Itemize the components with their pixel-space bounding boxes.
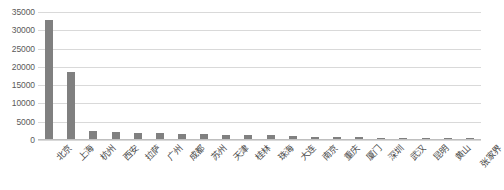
bar-slot	[215, 12, 237, 140]
y-axis-tick-label: 5000	[16, 117, 35, 126]
plot-area	[38, 12, 481, 140]
bar-slot	[149, 12, 171, 140]
y-axis: 35000300002500020000150001000050000	[0, 0, 38, 190]
bar[interactable]	[67, 72, 75, 140]
bar-slot	[193, 12, 215, 140]
x-axis-tick-label: 张家界	[478, 143, 504, 169]
x-axis-tick-label: 南京	[320, 143, 340, 163]
bar-slot	[237, 12, 259, 140]
y-axis-tick-label: 0	[30, 136, 35, 145]
axis-baseline	[38, 139, 481, 140]
y-axis-tick-label: 10000	[12, 99, 35, 108]
x-axis-tick-label: 深圳	[387, 143, 407, 163]
x-axis-tick-label: 北京	[54, 143, 74, 163]
x-axis-tick-label: 桂林	[254, 143, 274, 163]
bar-slot	[38, 12, 60, 140]
y-axis-tick-label: 20000	[12, 62, 35, 71]
bar-slot	[171, 12, 193, 140]
bar-slot	[282, 12, 304, 140]
x-axis-tick-label: 珠海	[276, 143, 296, 163]
bar-slot	[82, 12, 104, 140]
x-axis-tick-label: 成都	[187, 143, 207, 163]
x-axis-tick-label: 苏州	[209, 143, 229, 163]
x-axis-tick-label: 广州	[165, 143, 185, 163]
bar-slot	[127, 12, 149, 140]
bar[interactable]	[45, 20, 53, 140]
y-axis-tick-label: 30000	[12, 26, 35, 35]
y-axis-tick-label: 15000	[12, 81, 35, 90]
bars-layer	[38, 12, 481, 140]
x-axis-tick-label: 大连	[298, 143, 318, 163]
x-axis-tick-label: 昆明	[431, 143, 451, 163]
x-axis-tick-label: 天津	[232, 143, 252, 163]
x-axis-tick-label: 拉萨	[143, 143, 163, 163]
bar-slot	[437, 12, 459, 140]
bar-slot	[392, 12, 414, 140]
x-axis-tick-label: 黄山	[453, 143, 473, 163]
bar-slot	[370, 12, 392, 140]
x-axis-tick-label: 上海	[76, 143, 96, 163]
x-axis-tick-label: 重庆	[342, 143, 362, 163]
y-axis-tick-label: 35000	[12, 8, 35, 17]
bar-slot	[60, 12, 82, 140]
x-axis-tick-label: 杭州	[99, 143, 119, 163]
bar-slot	[104, 12, 126, 140]
bar-slot	[326, 12, 348, 140]
x-axis-tick-label: 厦门	[364, 143, 384, 163]
x-axis: 北京上海杭州西安拉萨广州成都苏州天津桂林珠海大连南京重庆厦门深圳武汉昆明黄山张家…	[38, 141, 481, 190]
bar-slot	[348, 12, 370, 140]
bar-slot	[260, 12, 282, 140]
bar-slot	[304, 12, 326, 140]
y-axis-tick-label: 25000	[12, 44, 35, 53]
bar-slot	[459, 12, 481, 140]
x-axis-tick-label: 西安	[121, 143, 141, 163]
bar-slot	[415, 12, 437, 140]
x-axis-tick-label: 武汉	[409, 143, 429, 163]
